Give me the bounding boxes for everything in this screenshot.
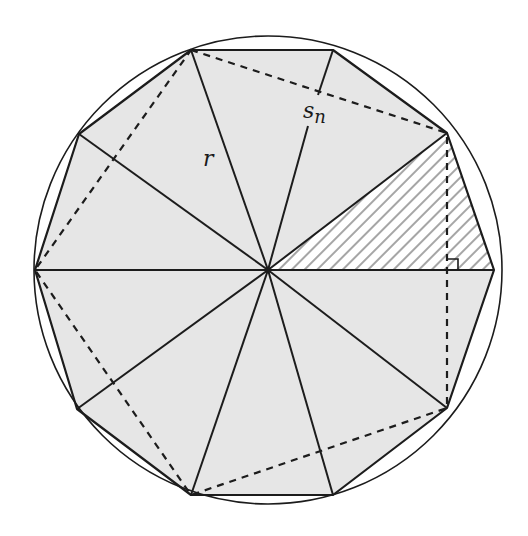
side-label-base: s [303,98,314,123]
radius-label: r [203,146,215,171]
side-label-subscript: n [314,106,326,127]
center-point [265,267,271,273]
decagon-diagram: r sn [0,0,528,536]
